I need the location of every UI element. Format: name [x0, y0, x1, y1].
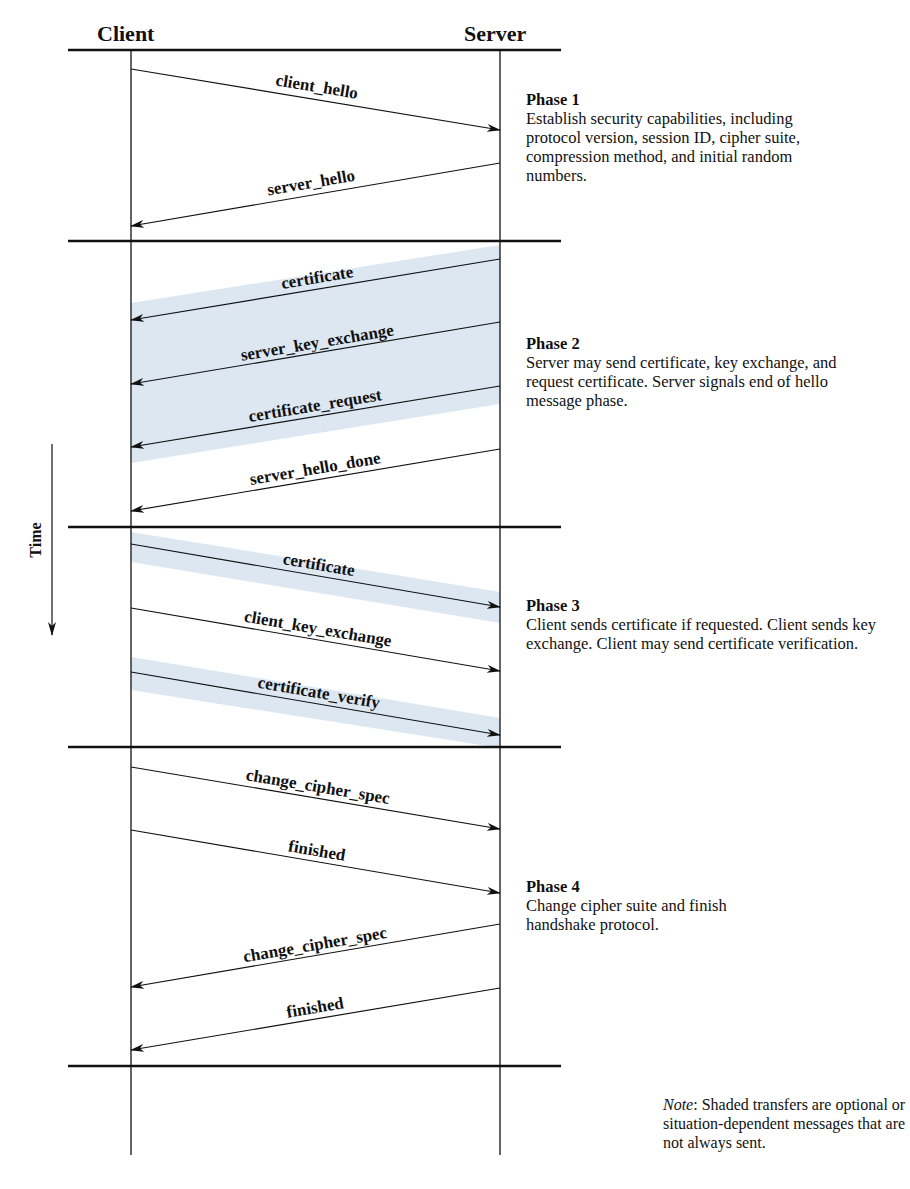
message-label: finished — [287, 836, 348, 865]
phase-4-description-block: Phase 4 Change cipher suite and finish h… — [526, 877, 786, 934]
message-server-change-cipher-spec: change_cipher_spec — [131, 923, 500, 987]
phase-4-description: Change cipher suite and finish handshake… — [526, 896, 786, 934]
message-label: server_hello_done — [248, 448, 382, 489]
message-label: client_key_exchange — [243, 607, 394, 651]
note-prefix: Note — [663, 1096, 693, 1113]
message-server-hello-done: server_hello_done — [131, 448, 500, 511]
phase-3-description-block: Phase 3 Client sends certificate if requ… — [526, 596, 891, 653]
message-label: client_hello — [274, 70, 359, 102]
message-server-finished: finished — [131, 988, 500, 1050]
time-label: Time — [27, 522, 44, 557]
phase-3-description: Client sends certificate if requested. C… — [526, 615, 891, 653]
phase-3-title: Phase 3 — [526, 596, 891, 615]
message-label: change_cipher_spec — [245, 765, 392, 808]
phase-1-description-block: Phase 1 Establish security capabilities,… — [526, 90, 826, 185]
phase-1-title: Phase 1 — [526, 90, 826, 109]
message-server-hello: server_hello — [131, 163, 500, 226]
note-text: : Shaded transfers are optional or situa… — [663, 1096, 905, 1151]
shading-note: Note: Shaded transfers are optional or s… — [663, 1095, 908, 1152]
message-certificate-verify: certificate_verify — [131, 672, 500, 735]
message-client-finished: finished — [131, 830, 500, 893]
optional-shade-phase3-certificate-verify — [131, 657, 500, 748]
optional-shade-phase3-certificate — [131, 532, 500, 623]
phase-2-description: Server may send certificate, key exchang… — [526, 353, 886, 410]
client-header: Client — [97, 21, 155, 46]
message-label: finished — [285, 993, 346, 1021]
phase-2-description-block: Phase 2 Server may send certificate, key… — [526, 334, 886, 410]
message-client-hello: client_hello — [131, 69, 500, 130]
phase-4-title: Phase 4 — [526, 877, 786, 896]
message-client-change-cipher-spec: change_cipher_spec — [131, 765, 500, 829]
phase-2-title: Phase 2 — [526, 334, 886, 353]
message-label: change_cipher_spec — [242, 923, 389, 966]
message-client-certificate: certificate — [131, 544, 500, 607]
phase-1-description: Establish security capabilities, includi… — [526, 109, 826, 185]
message-client-key-exchange: client_key_exchange — [131, 607, 500, 671]
message-label: server_hello — [266, 166, 357, 200]
server-header: Server — [464, 21, 527, 46]
